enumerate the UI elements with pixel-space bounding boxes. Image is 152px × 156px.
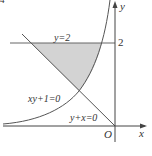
y-axis-label: y [120, 1, 125, 12]
y-axis-arrow-icon [113, 1, 118, 8]
y-tick-2-label: 2 [118, 37, 124, 48]
diagram-canvas [0, 0, 152, 156]
shaded-region [31, 43, 102, 91]
label-y-plus-x-equals-0: y+x=0 [70, 113, 97, 123]
corner-mark: 4 [0, 0, 5, 5]
label-y-equals-2: y=2 [54, 33, 70, 43]
origin-label: O [104, 129, 112, 140]
label-xy-plus-1-equals-0: xy+1=0 [28, 94, 60, 104]
x-axis-label: x [139, 128, 144, 139]
